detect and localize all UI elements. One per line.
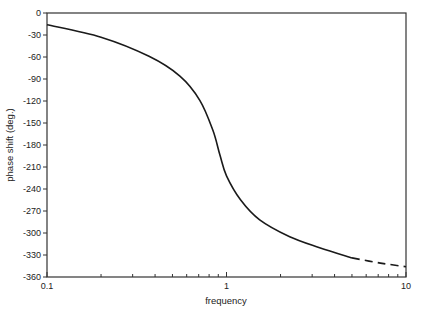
y-tick-label: -60 — [28, 52, 41, 62]
x-axis-ticks: 0.1110 — [41, 272, 411, 291]
phase-shift-chart: 0-30-60-90-120-150-180-210-240-270-300-3… — [0, 0, 422, 314]
y-tick-label: -240 — [23, 184, 41, 194]
y-tick-label: -210 — [23, 162, 41, 172]
y-axis-ticks: 0-30-60-90-120-150-180-210-240-270-300-3… — [23, 8, 47, 282]
y-tick-label: -270 — [23, 206, 41, 216]
x-tick-label: 10 — [401, 281, 411, 291]
extrapolated-phase-curve — [352, 258, 406, 267]
data-curves — [47, 25, 406, 267]
y-axis-label: phase shift (deg.) — [4, 108, 15, 181]
y-tick-label: -90 — [28, 74, 41, 84]
y-tick-label: -300 — [23, 228, 41, 238]
y-tick-label: -330 — [23, 250, 41, 260]
y-tick-label: -150 — [23, 118, 41, 128]
plot-frame — [47, 13, 406, 277]
y-tick-label: -120 — [23, 96, 41, 106]
x-axis-label: frequency — [205, 295, 247, 306]
phase-curve — [47, 25, 352, 258]
y-tick-label: -360 — [23, 272, 41, 282]
y-tick-label: -180 — [23, 140, 41, 150]
x-tick-label: 0.1 — [41, 281, 54, 291]
y-tick-label: 0 — [36, 8, 41, 18]
x-tick-label: 1 — [224, 281, 229, 291]
y-tick-label: -30 — [28, 30, 41, 40]
